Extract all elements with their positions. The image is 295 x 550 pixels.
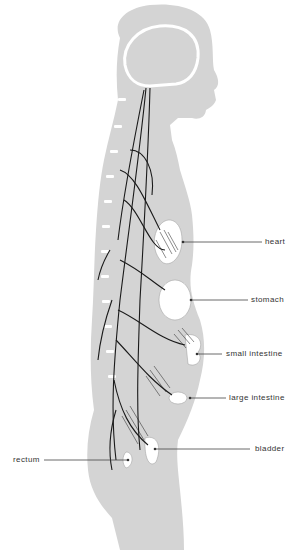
label-large-intestine: large intestine (229, 393, 285, 403)
label-small-intestine: small intestine (226, 349, 283, 359)
large-intestine-organ (169, 392, 187, 404)
nervous-system-figure (0, 0, 295, 550)
label-stomach: stomach (251, 295, 284, 305)
stomach-organ (159, 280, 191, 320)
label-heart: heart (265, 237, 285, 247)
label-rectum: rectum (13, 455, 40, 465)
label-bladder: bladder (255, 444, 285, 454)
